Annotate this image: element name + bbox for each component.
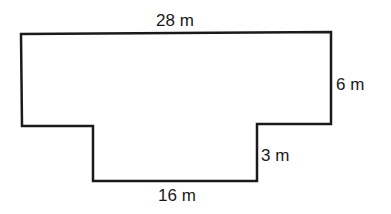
top-width-label: 28 m [156, 11, 194, 30]
right-height-label: 6 m [336, 75, 364, 94]
step-height-label: 3 m [261, 146, 289, 165]
composite-shape-diagram: 28 m 6 m 3 m 16 m [0, 0, 391, 214]
bottom-width-label: 16 m [158, 186, 196, 205]
